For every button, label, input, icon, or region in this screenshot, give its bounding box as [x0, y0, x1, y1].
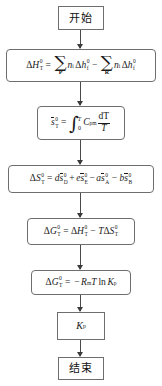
entropy-minus-1: −: [88, 174, 96, 184]
integral-symbol: ∫T0: [69, 116, 81, 131]
gibbs-G: G: [50, 227, 57, 237]
enthalpy-h2-scripts: 0f: [133, 59, 136, 71]
enthalpy-minus: −: [89, 61, 99, 71]
enthalpy-equals: =: [43, 61, 53, 71]
formula-entropy-change: ΔS0T = ds0D + es0E − as0A − bs0B: [30, 173, 132, 185]
node-entropy-change-equation[interactable]: ΔS0T = ds0D + es0E − as0A − bs0B: [8, 165, 154, 193]
node-kp-result[interactable]: Kp: [57, 312, 105, 340]
flowchart-canvas: 开始 ΔH0T = ∑P ni Δh0f − ∑R ni Δh0f s0T = …: [0, 0, 162, 386]
sigma-reactants: ∑R: [101, 56, 113, 76]
node-start-label: 开始: [69, 13, 93, 24]
formula-kp-result: Kp: [76, 321, 86, 331]
entropy-minus-2: −: [109, 174, 119, 184]
enthalpy-d1: Δ: [74, 61, 82, 71]
formula-gibbs: ΔG0T = ΔH0T − TΔS0T: [44, 225, 118, 237]
enthalpy-d2: Δ: [120, 61, 128, 71]
node-enthalpy-equation[interactable]: ΔH0T = ∑P ni Δh0f − ∑R ni Δh0f: [6, 49, 156, 82]
node-start[interactable]: 开始: [58, 6, 104, 30]
gibbs-kp-G: G: [52, 278, 59, 288]
enthalpy-n2: n: [114, 61, 119, 71]
entropy-change-S: S: [36, 174, 41, 184]
molar-entropy-C: C: [82, 118, 89, 128]
enthalpy-h1: h: [81, 61, 86, 71]
gibbs-S: S: [110, 227, 115, 237]
gibbs-kp-minus: −: [73, 278, 81, 288]
fraction-dT-over-T: dTT: [98, 112, 111, 134]
node-end-label: 结束: [69, 363, 93, 374]
kp-result-K: K: [76, 321, 83, 331]
gibbs-kp-equals: =: [62, 278, 72, 288]
entropy-change-equals: =: [45, 174, 55, 184]
node-molar-entropy-equation[interactable]: s0T = ∫T0 Cpm dTT: [37, 106, 125, 140]
enthalpy-H: H: [32, 61, 39, 71]
gibbs-equals: =: [61, 227, 71, 237]
formula-enthalpy: ΔH0T = ∑P ni Δh0f − ∑R ni Δh0f: [26, 56, 136, 76]
sigma-products: ∑P: [54, 56, 66, 76]
entropy-term3-s: s: [101, 174, 105, 184]
node-gibbs-kp-equation[interactable]: ΔG0T = − Rm T ln Kp: [31, 270, 131, 295]
gibbs-H: H: [77, 227, 84, 237]
molar-entropy-s: s: [51, 118, 55, 128]
node-gibbs-equation[interactable]: ΔG0T = ΔH0T − TΔS0T: [27, 218, 135, 245]
gibbs-kp-ln: ln: [96, 278, 107, 288]
molar-entropy-equals: =: [59, 118, 69, 128]
entropy-term2-s: s: [80, 174, 84, 184]
entropy-term4-s: s: [124, 174, 128, 184]
formula-gibbs-kp: ΔG0T = − Rm T ln Kp: [46, 276, 117, 288]
entropy-term1-s: s: [60, 174, 64, 184]
entropy-term4-scripts: 0B: [129, 173, 133, 185]
formula-molar-entropy: s0T = ∫T0 Cpm dTT: [51, 112, 111, 134]
node-end[interactable]: 结束: [58, 357, 104, 380]
entropy-plus: +: [68, 174, 76, 184]
gibbs-kp-K: K: [107, 278, 113, 288]
gibbs-minus: −: [88, 227, 98, 237]
gibbs-S-scripts: 0T: [115, 225, 118, 237]
enthalpy-h2: h: [128, 61, 133, 71]
